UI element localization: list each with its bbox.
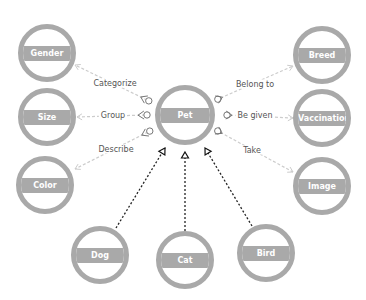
entity-label: Vaccination <box>298 111 346 126</box>
generalization-arrow-icon <box>159 148 165 155</box>
entity-label: Dog <box>76 248 124 263</box>
arrow-head-icon <box>75 64 81 69</box>
entity-label: Size <box>23 110 71 125</box>
zero-cardinality-icon <box>144 112 150 118</box>
entity-node-color[interactable]: Color <box>16 156 74 214</box>
entity-label: Pet <box>160 108 210 123</box>
entity-node-cat[interactable]: Cat <box>156 231 214 289</box>
edge-label-take: Take <box>241 146 263 155</box>
entity-node-breed[interactable]: Breed <box>293 26 351 84</box>
edge-label-categorize: Categorize <box>91 79 138 88</box>
edge-label-describe: Describe <box>96 145 135 154</box>
entity-label: Bird <box>242 246 290 261</box>
entity-node-pet[interactable]: Pet <box>155 85 215 145</box>
zero-cardinality-icon <box>146 98 152 104</box>
generalization-arrow-icon <box>182 152 189 158</box>
entity-label: Image <box>298 179 346 194</box>
edge-bird-pet <box>205 148 252 226</box>
entity-label: Color <box>21 178 69 193</box>
edge-cat-pet <box>182 152 189 231</box>
zero-cardinality-icon <box>147 128 153 134</box>
edge-label-belong-to: Belong to <box>234 80 276 89</box>
entity-node-image[interactable]: Image <box>293 157 351 215</box>
edge-label-group: Group <box>99 111 127 120</box>
entity-label: Gender <box>23 46 71 61</box>
arrow-head-icon <box>287 65 293 70</box>
edge-label-be-given: Be given <box>236 111 275 120</box>
entity-node-gender[interactable]: Gender <box>18 24 76 82</box>
entity-node-dog[interactable]: Dog <box>71 226 129 284</box>
inheritance-line <box>205 148 252 226</box>
entity-node-size[interactable]: Size <box>18 88 76 146</box>
entity-label: Breed <box>298 48 346 63</box>
edge-dog-pet <box>116 148 165 228</box>
inheritance-line <box>116 148 165 228</box>
entity-label: Cat <box>161 253 209 268</box>
entity-node-vaccination[interactable]: Vaccination <box>293 89 351 147</box>
entity-node-bird[interactable]: Bird <box>237 224 295 282</box>
